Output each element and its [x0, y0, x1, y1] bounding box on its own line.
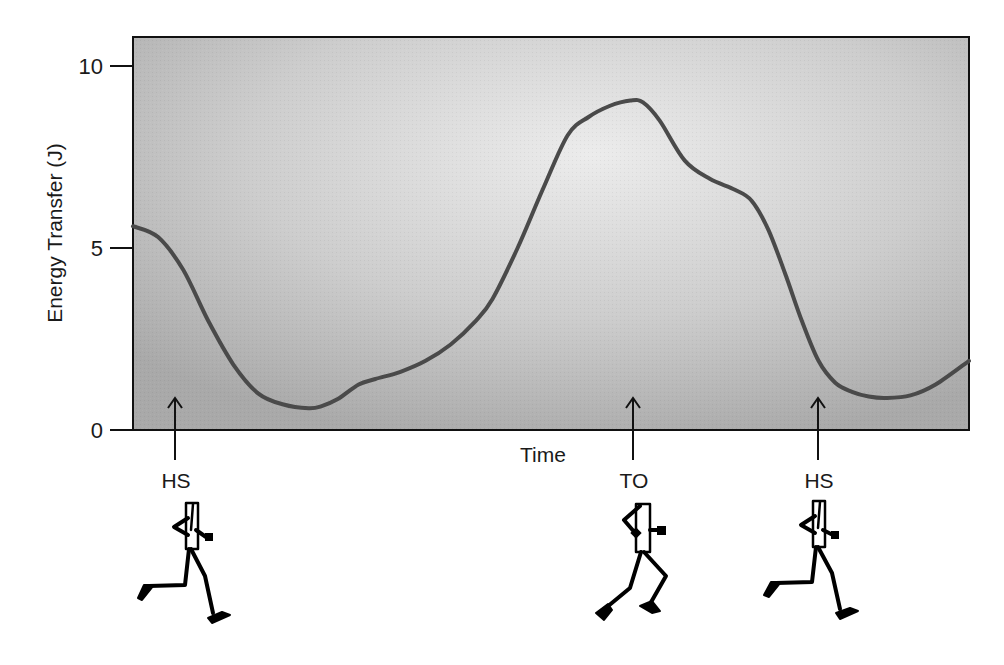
runner-heel-strike-icon	[764, 501, 858, 619]
y-tick-label: 5	[91, 236, 103, 261]
x-axis-title: Time	[520, 443, 566, 466]
plot-area	[133, 37, 969, 430]
event-label-to: TO	[620, 469, 649, 492]
energy-transfer-chart: 0510 Energy Transfer (J) Time HS TO HS	[0, 0, 1004, 665]
y-tick-label: 0	[91, 418, 103, 443]
y-axis: 0510	[79, 54, 133, 443]
runner-toe-off-icon	[596, 504, 666, 620]
y-axis-title: Energy Transfer (J)	[43, 143, 66, 323]
y-tick-label: 10	[79, 54, 103, 79]
event-label-hs: HS	[804, 469, 833, 492]
runner-heel-strike-icon	[138, 503, 230, 623]
event-label-hs: HS	[161, 469, 190, 492]
